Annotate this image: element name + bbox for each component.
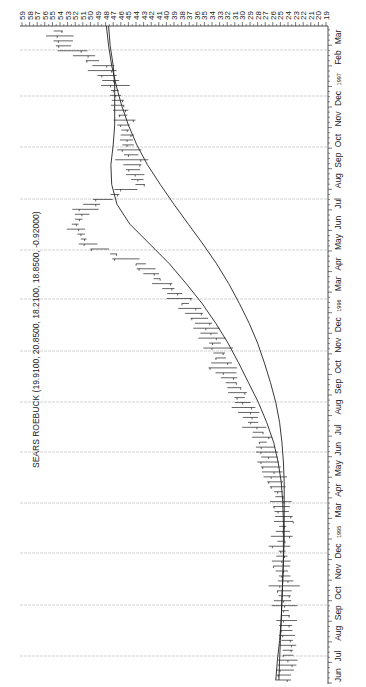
month-label: Jun [333, 215, 343, 229]
month-label: Dec [333, 90, 343, 106]
month-label: Dec [333, 316, 343, 332]
month-label: Apr [333, 483, 343, 496]
price-axis: 5958575655545352515049484746454443424140… [18, 11, 331, 26]
year-label: 1995 [336, 526, 342, 538]
short-moving-average-line [109, 26, 284, 680]
month-label: Oct [333, 133, 343, 147]
month-label: Sep [333, 379, 343, 394]
month-label: Aug [333, 399, 343, 414]
month-label: Feb [333, 50, 343, 65]
month-label: May [333, 233, 343, 250]
long-moving-average-line [106, 26, 284, 680]
month-label: Aug [333, 625, 343, 640]
month-label: Sep [333, 605, 343, 620]
month-label: May [333, 459, 343, 476]
month-label: Nov [333, 563, 343, 579]
month-label: Nov [333, 337, 343, 353]
month-label: Mar [333, 276, 343, 291]
month-label: Apr [333, 257, 343, 270]
month-label: Aug [333, 173, 343, 188]
grid-lines [20, 50, 328, 656]
stock-chart: 5958575655545352515049484746454443424140… [0, 0, 366, 687]
month-label: Mar [333, 503, 343, 518]
month-label: Jun [333, 668, 343, 682]
month-label: Jul [333, 198, 343, 209]
month-label: Jul [333, 424, 343, 435]
month-label: Oct [333, 360, 343, 374]
price-tick-label: 19 [322, 11, 331, 20]
month-label: Oct [333, 586, 343, 600]
month-label: Nov [333, 111, 343, 127]
year-label: 1997 [336, 73, 342, 85]
month-label: Sep [333, 152, 343, 167]
moving-average-lines [106, 26, 284, 680]
month-label: Mar [333, 29, 343, 44]
month-label: Jul [333, 650, 343, 661]
chart-title: SEARS ROEBUCK (19.9100, 20.8500, 18.2100… [31, 211, 41, 468]
month-label: Dec [333, 543, 343, 559]
month-label: Jun [333, 442, 343, 456]
year-label: 1996 [336, 299, 342, 311]
time-axis: JunJulAugSepOctNovDec1995MarAprMayJunJul… [328, 26, 343, 684]
